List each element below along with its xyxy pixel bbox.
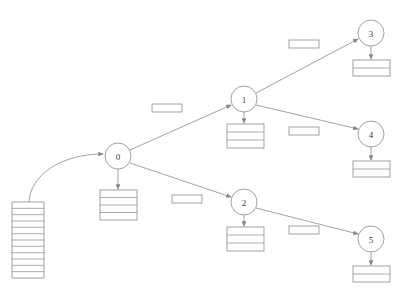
edge-1-4: [256, 105, 358, 129]
node-5-table: [353, 266, 390, 282]
edge-label-2-5[interactable]: [289, 226, 319, 234]
node-4-table: [353, 161, 390, 177]
node-label: 2: [242, 198, 247, 208]
edge-label-0-1[interactable]: [152, 104, 182, 112]
diagram-svg: 012345: [0, 0, 399, 291]
edge-label-1-4[interactable]: [289, 127, 319, 135]
input-arrow-layer: [29, 154, 103, 202]
node-0[interactable]: 0: [105, 143, 131, 169]
node-3-table: [353, 60, 390, 76]
node-5[interactable]: 5: [358, 226, 384, 252]
node-label: 5: [369, 235, 374, 245]
node-0-table: [100, 190, 137, 220]
diagram-canvas: 012345: [0, 0, 399, 291]
node-label: 1: [242, 95, 247, 105]
node-2[interactable]: 2: [231, 189, 257, 215]
node-label: 4: [369, 130, 374, 140]
edge-0-2: [130, 163, 231, 197]
node-label: 3: [369, 29, 374, 39]
node-1-table: [227, 124, 264, 148]
node-2-table: [227, 227, 264, 251]
node-3[interactable]: 3: [358, 20, 384, 46]
input-stack-to-node-0-arrow: [29, 154, 103, 202]
node-1[interactable]: 1: [231, 86, 257, 112]
input-stack: [12, 202, 44, 278]
edge-label-1-3[interactable]: [289, 40, 319, 48]
input-stack[interactable]: [12, 202, 44, 278]
node-label: 0: [116, 152, 121, 162]
edge-label-0-2[interactable]: [172, 195, 202, 203]
node-4[interactable]: 4: [358, 121, 384, 147]
